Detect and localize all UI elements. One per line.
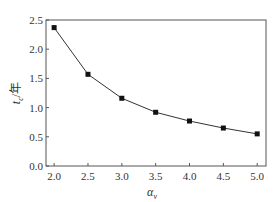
square-marker-icon (255, 131, 260, 136)
x-tick-label: 3.5 (149, 170, 163, 182)
y-tick-label: 0.0 (29, 160, 43, 172)
plot-frame (46, 20, 266, 166)
square-marker-icon (85, 72, 90, 77)
y-axis-label: tc/年 (9, 82, 25, 104)
square-marker-icon (52, 25, 57, 30)
y-tick-label: 0.5 (29, 131, 43, 143)
y-tick-label: 2.5 (29, 14, 43, 26)
x-tick-label: 2.5 (81, 170, 95, 182)
data-markers (52, 25, 260, 136)
square-marker-icon (119, 96, 124, 101)
x-tick-label: 2.0 (47, 170, 61, 182)
x-tick-label: 3.0 (115, 170, 129, 182)
y-tick-label: 1.5 (29, 72, 43, 84)
x-tick-label: 4.5 (216, 170, 230, 182)
square-marker-icon (221, 126, 226, 131)
data-line (54, 28, 257, 134)
x-axis-label: αv (147, 185, 157, 201)
y-tick-label: 1.0 (29, 102, 43, 114)
x-tick-label: 4.0 (183, 170, 197, 182)
square-marker-icon (153, 110, 158, 115)
line-chart: 0.00.51.01.52.02.5 2.02.53.03.54.04.55.0… (0, 0, 278, 202)
square-marker-icon (187, 119, 192, 124)
y-tick-label: 2.0 (29, 43, 43, 55)
x-tick-label: 5.0 (250, 170, 264, 182)
